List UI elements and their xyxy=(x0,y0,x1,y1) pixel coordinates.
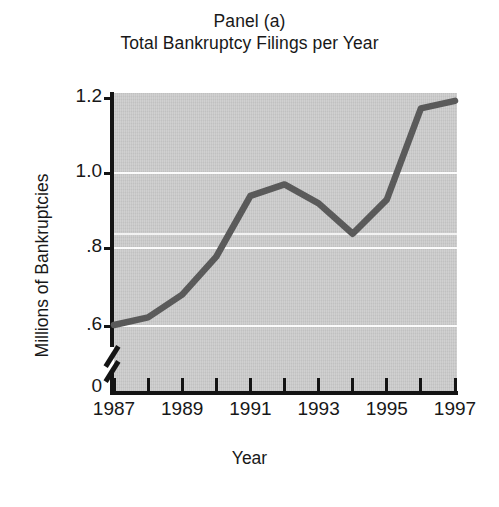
y-tick-label-0-6: .6 xyxy=(46,313,102,335)
data-series-line xyxy=(114,93,457,393)
x-axis-label: Year xyxy=(0,448,499,469)
x-tick-label-1995: 1995 xyxy=(352,398,422,420)
y-tick-label-0-8: .8 xyxy=(46,235,102,257)
x-tick-label-1993: 1993 xyxy=(284,398,354,420)
y-tick-label-1-0: 1.0 xyxy=(46,160,102,182)
x-tick-label-1989: 1989 xyxy=(147,398,217,420)
y-tick-1-0 xyxy=(104,172,114,175)
plot-area xyxy=(114,93,457,393)
x-tick-label-1997: 1997 xyxy=(420,398,490,420)
y-tick-label-0: 0 xyxy=(46,375,102,397)
y-tick-label-1-2: 1.2 xyxy=(46,85,102,107)
chart-figure: Panel (a) Total Bankruptcy Filings per Y… xyxy=(0,0,499,507)
y-tick-0-8 xyxy=(104,247,114,250)
y-tick-label-group: 1.2 1.0 .8 .6 0 xyxy=(40,0,102,507)
y-tick-1-2 xyxy=(104,97,114,100)
x-tick-label-1987: 1987 xyxy=(79,398,149,420)
x-tick-label-1991: 1991 xyxy=(215,398,285,420)
